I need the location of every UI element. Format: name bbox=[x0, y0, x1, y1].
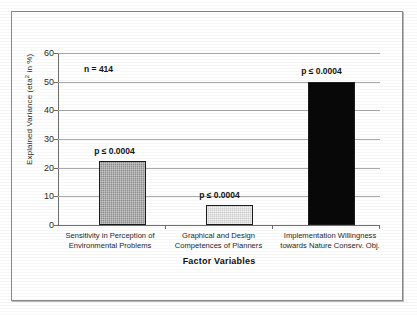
y-axis-title-suffix: in %) bbox=[25, 54, 34, 75]
y-tick-label-10: 10 bbox=[20, 192, 54, 201]
bar-sensitivity-in-perception[interactable] bbox=[99, 161, 146, 226]
figure-root: 60 50 40 30 20 10 0 Explained Variance (… bbox=[0, 0, 417, 315]
bar-implementation-willingness[interactable] bbox=[308, 82, 355, 225]
p-value-annotation-bar-1: p ≤ 0.0004 bbox=[62, 146, 167, 156]
x-axis-title: Factor Variables bbox=[58, 256, 380, 266]
x-category-label-3: Implementation Willingness towards Natur… bbox=[271, 231, 389, 250]
x-tick-mark-3 bbox=[379, 225, 380, 229]
gridline-60 bbox=[58, 53, 380, 54]
bar-graphical-design-competences[interactable] bbox=[206, 205, 253, 225]
x-tick-mark-1 bbox=[165, 225, 166, 229]
x-category-label-3-line-2: towards Nature Conserv. Obj. bbox=[271, 241, 389, 251]
y-axis-title: Explained Variance (eta2 in %) bbox=[24, 34, 35, 184]
x-category-label-3-line-1: Implementation Willingness bbox=[271, 231, 389, 241]
x-category-label-2-line-1: Graphical and Design bbox=[165, 231, 272, 241]
x-tick-mark-2 bbox=[272, 225, 273, 229]
x-category-label-1-line-1: Sensitivity in Perception of bbox=[55, 231, 165, 241]
x-category-label-2-line-2: Competences of Planners bbox=[165, 241, 272, 251]
x-category-label-1: Sensitivity in Perception of Environment… bbox=[55, 231, 165, 250]
x-category-label-2: Graphical and Design Competences of Plan… bbox=[165, 231, 272, 250]
y-axis-title-superscript: 2 bbox=[24, 75, 30, 78]
p-value-annotation-bar-2: p ≤ 0.0004 bbox=[167, 190, 272, 200]
p-value-annotation-bar-3: p ≤ 0.0004 bbox=[269, 66, 374, 76]
y-axis-title-prefix: Explained Variance (eta bbox=[25, 78, 34, 165]
y-tick-label-0: 0 bbox=[20, 221, 54, 230]
sample-size-annotation: n = 414 bbox=[84, 64, 113, 74]
x-category-label-1-line-2: Environmental Problems bbox=[55, 241, 165, 251]
gridline-baseline-0 bbox=[58, 225, 380, 226]
